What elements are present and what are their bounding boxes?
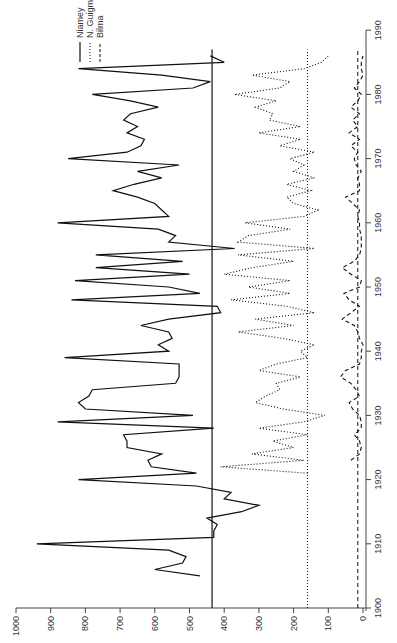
- value-tick-label: 300: [254, 616, 264, 631]
- chart-canvas: 0100200300400500600700800900100019001910…: [0, 0, 397, 643]
- value-tick-label: 600: [150, 616, 160, 631]
- rainfall-chart: 0100200300400500600700800900100019001910…: [0, 0, 397, 643]
- value-tick-label: 100: [323, 616, 333, 631]
- series-lines: [37, 56, 363, 576]
- year-tick-label: 1930: [373, 405, 383, 425]
- series-niamey: [37, 56, 259, 576]
- series-nguigmi: [221, 56, 329, 473]
- value-tick-label: 1000: [11, 616, 21, 636]
- value-tick-label: 500: [185, 616, 195, 631]
- year-tick-label: 1970: [373, 149, 383, 169]
- year-tick-label: 1940: [373, 341, 383, 361]
- value-tick-label: 0: [358, 616, 368, 621]
- value-tick-label: 800: [80, 616, 90, 631]
- value-tick-label: 200: [289, 616, 299, 631]
- value-tick-label: 900: [46, 616, 56, 631]
- year-tick-label: 1920: [373, 470, 383, 490]
- year-tick-label: 1900: [373, 598, 383, 618]
- mean-lines: [212, 49, 358, 608]
- year-tick-label: 1910: [373, 534, 383, 554]
- legend-label-niamey: Niamey: [75, 7, 85, 38]
- year-tick-label: 1980: [373, 84, 383, 104]
- year-tick-label: 1990: [373, 20, 383, 40]
- series-bilma: [340, 56, 363, 460]
- year-tick-label: 1950: [373, 277, 383, 297]
- legend-label-nguigmi: N. Guigmi: [85, 0, 95, 38]
- year-tick-label: 1960: [373, 213, 383, 233]
- axes: 0100200300400500600700800900100019001910…: [11, 20, 383, 636]
- value-tick-label: 400: [219, 616, 229, 631]
- legend: Niamey N. Guigmi Bilma: [75, 0, 105, 62]
- legend-label-bilma: Bilma: [95, 15, 105, 38]
- value-tick-label: 700: [115, 616, 125, 631]
